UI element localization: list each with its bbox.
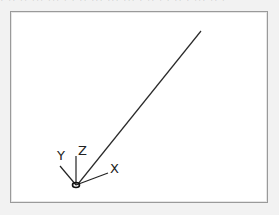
line-segment[interactable] <box>78 31 201 184</box>
drawing-canvas[interactable]: X Y Z <box>0 0 279 215</box>
drawing-viewport[interactable]: X Y Z <box>10 11 268 203</box>
cad-window: · ·· ·· ··· ··· · · ·· ··· ··· ··· · ·· … <box>0 0 279 215</box>
x-axis-line <box>76 173 108 185</box>
y-axis-label: Y <box>56 148 65 163</box>
z-axis-label: Z <box>78 143 87 158</box>
x-axis-label: X <box>110 161 119 176</box>
ucs-axis-icon: X Y Z <box>56 143 119 188</box>
